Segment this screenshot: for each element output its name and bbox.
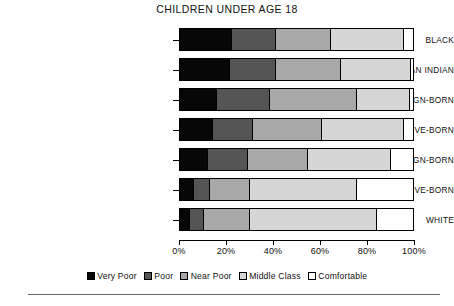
bar-segment-verypoor bbox=[180, 29, 232, 50]
x-axis-line bbox=[179, 240, 415, 241]
bar-segment-verypoor bbox=[180, 89, 217, 110]
bar-segment-verypoor bbox=[180, 59, 230, 80]
plot-area bbox=[179, 28, 414, 240]
x-axis-tick bbox=[226, 241, 227, 245]
bar-row bbox=[179, 58, 414, 81]
x-axis-tick bbox=[320, 241, 321, 245]
bar-segment-comfortable bbox=[391, 149, 413, 170]
x-axis-tick-label: 0% bbox=[172, 246, 185, 256]
bar-segment-middleclass bbox=[322, 119, 404, 140]
bar-segment-nearpoor bbox=[270, 89, 357, 110]
x-axis-tick-label: 20% bbox=[217, 246, 236, 256]
bar-row bbox=[179, 208, 414, 231]
legend-swatch-icon bbox=[180, 272, 188, 280]
x-axis-tick-label: 60% bbox=[311, 246, 330, 256]
x-axis-tick-label: 100% bbox=[402, 246, 426, 256]
legend-item: Poor bbox=[144, 271, 173, 281]
bar-segment-nearpoor bbox=[248, 149, 309, 170]
legend-item: Very Poor bbox=[87, 271, 137, 281]
bar-segment-verypoor bbox=[180, 179, 194, 200]
legend-label: Comfortable bbox=[318, 271, 367, 281]
bar-segment-verypoor bbox=[180, 209, 190, 230]
legend-label: Poor bbox=[154, 271, 173, 281]
bar-segment-middleclass bbox=[250, 179, 357, 200]
bar-segment-poor bbox=[190, 209, 204, 230]
x-axis-tick bbox=[414, 241, 415, 245]
bar-segment-verypoor bbox=[180, 119, 213, 140]
bar-segment-poor bbox=[230, 59, 275, 80]
bar-row bbox=[179, 148, 414, 171]
bar-row bbox=[179, 178, 414, 201]
bar-segment-middleclass bbox=[331, 29, 403, 50]
bar-segment-poor bbox=[213, 119, 254, 140]
bar-segment-nearpoor bbox=[204, 209, 249, 230]
legend-swatch-icon bbox=[144, 272, 152, 280]
bar-segment-comfortable bbox=[411, 59, 413, 80]
bar-segment-middleclass bbox=[357, 89, 409, 110]
legend-label: Very Poor bbox=[97, 271, 137, 281]
bar-segment-verypoor bbox=[180, 149, 208, 170]
legend-item: Comfortable bbox=[308, 271, 368, 281]
x-axis-tick-label: 40% bbox=[264, 246, 283, 256]
bottom-divider bbox=[28, 294, 440, 295]
x-axis-tick bbox=[179, 241, 180, 245]
bar-row bbox=[179, 28, 414, 51]
bar-segment-poor bbox=[232, 29, 275, 50]
legend-label: Near Poor bbox=[191, 271, 232, 281]
bar-segment-comfortable bbox=[357, 179, 413, 200]
stacked-bar-chart: CHILDREN UNDER AGE 18 BLACKAMERICAN INDI… bbox=[0, 0, 454, 306]
bar-segment-nearpoor bbox=[210, 179, 250, 200]
legend-swatch-icon bbox=[308, 272, 316, 280]
bar-segment-nearpoor bbox=[253, 119, 322, 140]
bar-segment-nearpoor bbox=[276, 29, 332, 50]
legend-label: Middle Class bbox=[249, 271, 301, 281]
legend-item: Near Poor bbox=[180, 271, 231, 281]
legend-swatch-icon bbox=[87, 272, 95, 280]
bar-segment-poor bbox=[208, 149, 248, 170]
x-axis-tick bbox=[273, 241, 274, 245]
bar-segment-middleclass bbox=[308, 149, 391, 170]
legend-swatch-icon bbox=[239, 272, 247, 280]
x-axis-tick bbox=[367, 241, 368, 245]
bar-segment-poor bbox=[217, 89, 269, 110]
bar-segment-middleclass bbox=[341, 59, 411, 80]
bar-segment-comfortable bbox=[377, 209, 413, 230]
chart-legend: Very PoorPoorNear PoorMiddle ClassComfor… bbox=[0, 271, 454, 281]
legend-item: Middle Class bbox=[239, 271, 301, 281]
x-axis-tick-label: 80% bbox=[358, 246, 377, 256]
bar-segment-middleclass bbox=[250, 209, 377, 230]
bar-segment-comfortable bbox=[410, 89, 413, 110]
bar-segment-poor bbox=[194, 179, 210, 200]
bar-segment-comfortable bbox=[404, 119, 413, 140]
bar-row bbox=[179, 88, 414, 111]
bar-segment-comfortable bbox=[404, 29, 413, 50]
bar-segment-nearpoor bbox=[276, 59, 341, 80]
chart-title: CHILDREN UNDER AGE 18 bbox=[0, 3, 454, 15]
bar-row bbox=[179, 118, 414, 141]
